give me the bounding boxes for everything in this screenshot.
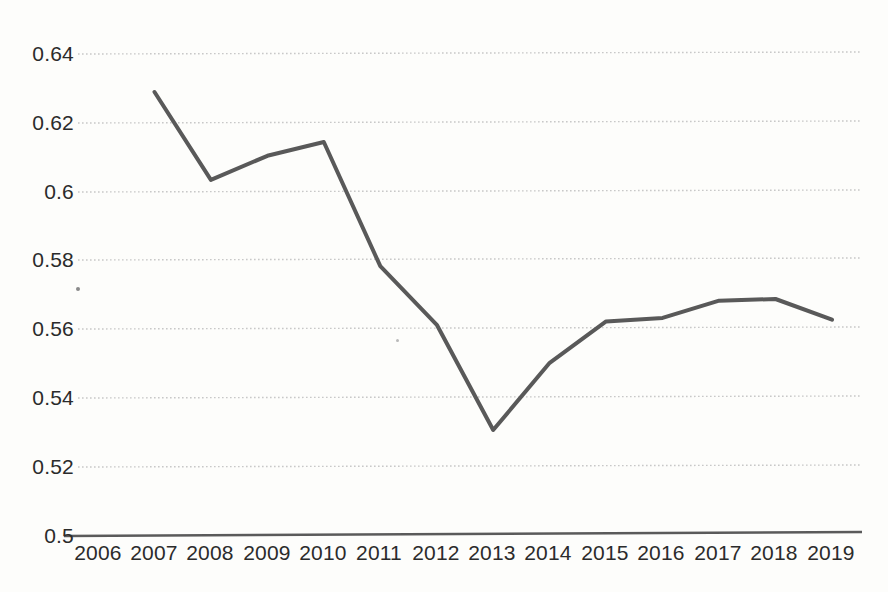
x-tick-label-2013: 2013: [461, 541, 523, 565]
gridline-0.62: [78, 121, 862, 123]
gridline-0.64: [78, 52, 862, 54]
gridlines: [78, 52, 862, 467]
y-tick-label-0.58: 0.58: [8, 248, 74, 272]
y-tick-label-0.52: 0.52: [8, 455, 74, 479]
x-tick-label-2009: 2009: [236, 541, 298, 565]
x-tick-label-2006: 2006: [67, 541, 129, 565]
x-tick-label-2018: 2018: [743, 541, 805, 565]
y-tick-label-0.60: 0.6: [8, 180, 74, 204]
x-tick-label-2016: 2016: [630, 541, 692, 565]
x-tick-label-2010: 2010: [292, 541, 354, 565]
gridline-0.56: [78, 327, 862, 329]
gridline-0.58: [78, 258, 862, 260]
x-tick-label-2012: 2012: [405, 541, 467, 565]
x-tick-label-2008: 2008: [179, 541, 241, 565]
x-tick-label-2014: 2014: [517, 541, 579, 565]
gridline-0.52: [78, 465, 862, 467]
line-chart: 0.64 0.62 0.6 0.58 0.56 0.54 0.52 0.5 20…: [0, 0, 888, 592]
x-axis-line: [64, 532, 862, 536]
x-tick-label-2017: 2017: [687, 541, 749, 565]
y-tick-label-0.50: 0.5: [8, 524, 74, 548]
chart-canvas: [0, 0, 888, 592]
y-tick-label-0.54: 0.54: [8, 386, 74, 410]
gridline-0.54: [78, 396, 862, 398]
x-tick-label-2007: 2007: [123, 541, 185, 565]
data-series-line: [155, 92, 833, 430]
y-tick-label-0.62: 0.62: [8, 111, 74, 135]
scan-speck: [76, 287, 80, 291]
y-tick-label-0.56: 0.56: [8, 317, 74, 341]
y-tick-label-0.64: 0.64: [8, 42, 74, 66]
x-tick-label-2019: 2019: [800, 541, 862, 565]
x-tick-label-2015: 2015: [574, 541, 636, 565]
gridline-0.60: [78, 190, 862, 192]
x-tick-label-2011: 2011: [348, 541, 410, 565]
scan-speck: [396, 339, 399, 342]
